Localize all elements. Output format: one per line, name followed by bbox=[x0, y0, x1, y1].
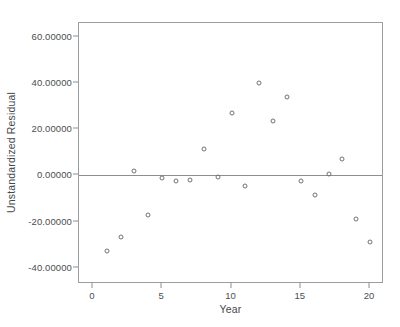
data-point bbox=[201, 146, 206, 151]
y-axis-tick-label: 0.00000 bbox=[8, 169, 72, 180]
data-point bbox=[118, 234, 123, 239]
y-axis-tick-label: -20.00000 bbox=[8, 215, 72, 226]
y-axis-tick-mark bbox=[73, 220, 78, 221]
x-axis-title: Year bbox=[78, 303, 383, 315]
data-point bbox=[368, 240, 373, 245]
data-point bbox=[146, 212, 151, 217]
data-point bbox=[354, 217, 359, 222]
plot-area bbox=[78, 22, 383, 283]
y-axis-tick-mark bbox=[73, 174, 78, 175]
x-axis-tick-label: 5 bbox=[141, 290, 181, 301]
data-point bbox=[187, 178, 192, 183]
x-axis-title-text: Year bbox=[220, 303, 242, 315]
zero-reference-line bbox=[79, 175, 382, 176]
y-axis-tick-mark bbox=[73, 266, 78, 267]
y-axis-tick-mark bbox=[73, 82, 78, 83]
data-point bbox=[174, 179, 179, 184]
data-point bbox=[284, 94, 289, 99]
data-point bbox=[340, 157, 345, 162]
y-axis-tick-label: 60.00000 bbox=[8, 30, 72, 41]
y-axis-tick-label: 40.00000 bbox=[8, 77, 72, 88]
data-point bbox=[243, 183, 248, 188]
x-axis-tick-mark bbox=[91, 283, 92, 288]
x-axis-tick-mark bbox=[161, 283, 162, 288]
data-point bbox=[312, 193, 317, 198]
x-axis-tick-label: 20 bbox=[349, 290, 389, 301]
y-axis-tick-label: -40.00000 bbox=[8, 261, 72, 272]
data-point bbox=[229, 111, 234, 116]
x-axis-tick-mark bbox=[299, 283, 300, 288]
x-axis-tick-mark bbox=[230, 283, 231, 288]
y-axis-tick-labels: 60.0000040.0000020.000000.00000-20.00000… bbox=[5, 0, 72, 327]
data-point bbox=[215, 174, 220, 179]
data-point bbox=[326, 172, 331, 177]
data-point bbox=[104, 248, 109, 253]
x-axis-tick-label: 0 bbox=[72, 290, 112, 301]
y-axis-tick-label: 20.00000 bbox=[8, 123, 72, 134]
scatter-plot-figure: Unstandardized Residual 60.0000040.00000… bbox=[0, 0, 400, 327]
data-point bbox=[160, 175, 165, 180]
y-axis-tick-mark bbox=[73, 35, 78, 36]
y-axis-tick-mark bbox=[73, 128, 78, 129]
data-point bbox=[298, 179, 303, 184]
x-axis-tick-label: 10 bbox=[211, 290, 251, 301]
data-point bbox=[271, 119, 276, 124]
data-point bbox=[257, 81, 262, 86]
x-axis-tick-label: 15 bbox=[280, 290, 320, 301]
x-axis-tick-mark bbox=[369, 283, 370, 288]
data-point bbox=[132, 168, 137, 173]
